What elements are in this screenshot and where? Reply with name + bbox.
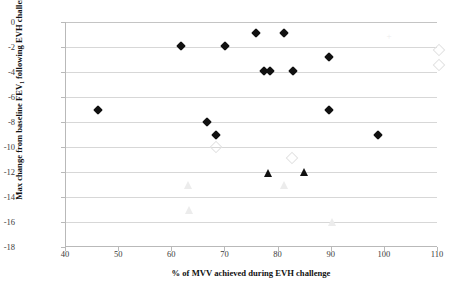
data-point-filled-diamond: [176, 41, 186, 51]
y-tick-label: -2: [8, 43, 15, 52]
x-tick-label: 50: [103, 250, 133, 259]
gridline: [66, 222, 437, 223]
gridline: [66, 22, 437, 23]
data-point-filled-diamond: [220, 41, 230, 51]
x-tick-mark: [437, 247, 438, 251]
data-point-open-triangle: [328, 218, 336, 226]
data-point-open-triangle: [184, 181, 192, 189]
y-tick-label: 0: [11, 18, 15, 27]
data-point-open-diamond: [210, 141, 223, 154]
y-tick-label: -4: [8, 68, 15, 77]
gridline: [66, 97, 437, 98]
gridline: [66, 197, 437, 198]
data-point-filled-diamond: [288, 66, 298, 76]
data-point-filled-diamond: [211, 130, 221, 140]
y-tick-label: -12: [4, 168, 15, 177]
x-tick-label: 70: [209, 250, 239, 259]
data-point-open-triangle: [280, 181, 288, 189]
data-point-filled-triangle: [300, 168, 308, 176]
x-tick-label: 80: [263, 250, 293, 259]
y-tick-label: -14: [4, 193, 15, 202]
y-tick-label: -16: [4, 218, 15, 227]
x-tick-label: 60: [156, 250, 186, 259]
data-point-filled-diamond: [251, 28, 261, 38]
x-tick-label: 100: [369, 250, 399, 259]
y-axis-title: Max change from baseline FEV₁ following …: [14, 0, 25, 201]
data-point-open-diamond: [433, 43, 446, 56]
data-point-open-diamond: [285, 152, 298, 165]
y-tick-label: -8: [8, 118, 15, 127]
plot-area: +: [65, 22, 437, 247]
x-tick-label: 90: [316, 250, 346, 259]
data-point-filled-diamond: [324, 105, 334, 115]
gridline: [66, 172, 437, 173]
gridline: [66, 72, 437, 73]
x-tick-mark: [278, 247, 279, 251]
x-tick-mark: [118, 247, 119, 251]
y-tick-label: -6: [8, 93, 15, 102]
data-point-filled-diamond: [374, 130, 384, 140]
data-point-filled-triangle: [264, 169, 272, 177]
data-point-open-diamond: [433, 58, 446, 71]
data-point-filled-diamond: [202, 117, 212, 127]
gridline: [66, 147, 437, 148]
x-axis-title: % of MVV achieved during EVH challenge: [65, 268, 437, 278]
data-point-open-triangle: [185, 206, 193, 214]
x-tick-label: 40: [50, 250, 80, 259]
x-tick-mark: [384, 247, 385, 251]
x-tick-mark: [224, 247, 225, 251]
scatter-chart: Max change from baseline FEV₁ following …: [0, 0, 454, 297]
gridline: [66, 47, 437, 48]
y-tick-label: -10: [4, 143, 15, 152]
y-tick-label: -18: [4, 243, 15, 252]
gridline: [66, 122, 437, 123]
x-tick-mark: [331, 247, 332, 251]
data-point-filled-diamond: [93, 105, 103, 115]
x-tick-mark: [171, 247, 172, 251]
data-point-faint-plus: +: [386, 33, 392, 39]
x-tick-label: 110: [422, 250, 452, 259]
data-point-filled-diamond: [324, 52, 334, 62]
data-point-filled-diamond: [279, 28, 289, 38]
x-tick-mark: [65, 247, 66, 251]
